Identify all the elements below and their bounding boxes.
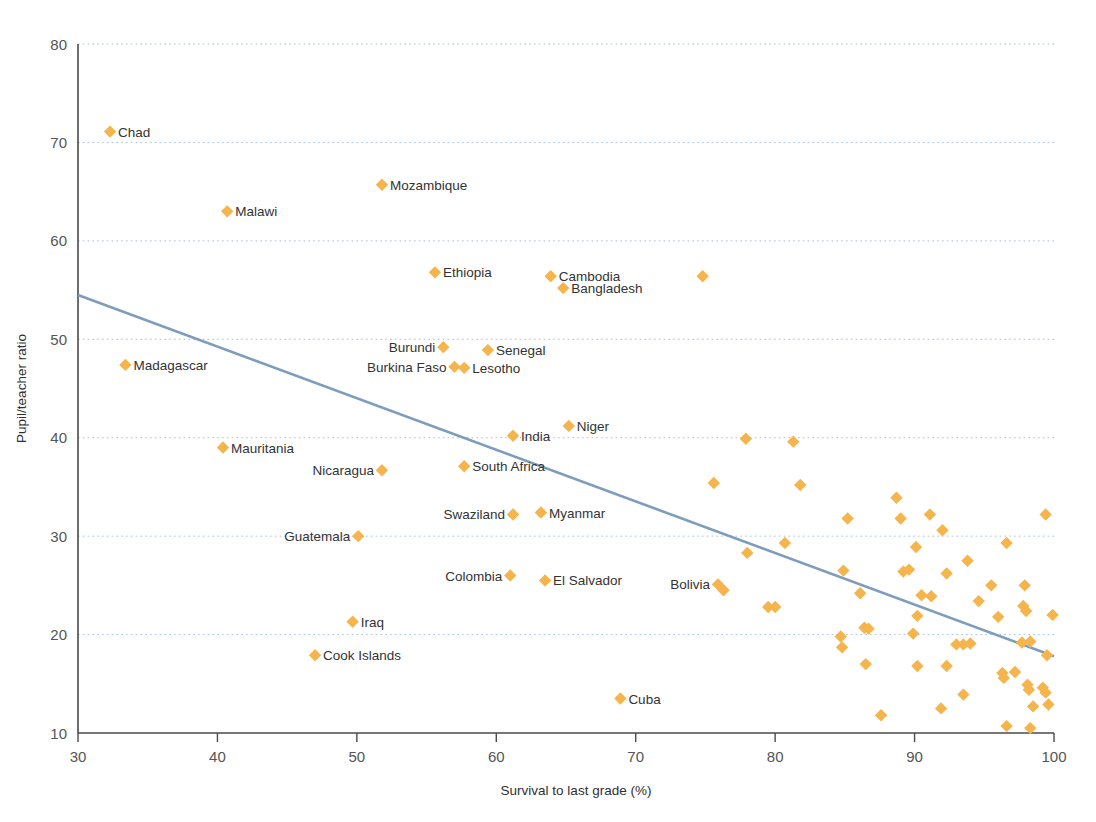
plot-area: 102030405060708030405060708090100Surviva… <box>0 0 1096 822</box>
labeled-data-point[interactable]: Cook Islands <box>309 648 401 663</box>
data-point[interactable] <box>910 541 922 553</box>
y-tick-label-10: 10 <box>50 725 67 742</box>
labeled-data-point[interactable]: South Africa <box>458 459 545 474</box>
data-point[interactable] <box>924 508 936 520</box>
data-point[interactable] <box>940 660 952 672</box>
labeled-data-point[interactable]: Colombia <box>445 569 516 584</box>
data-point[interactable] <box>741 547 753 559</box>
data-point[interactable] <box>834 630 846 642</box>
data-point[interactable] <box>985 579 997 591</box>
data-point[interactable] <box>936 524 948 536</box>
data-point-marker[interactable] <box>458 362 470 374</box>
data-point[interactable] <box>779 537 791 549</box>
data-point-label: Burkina Faso <box>367 360 447 375</box>
data-point[interactable] <box>841 512 853 524</box>
data-point-marker[interactable] <box>309 649 321 661</box>
labeled-data-point[interactable]: Mauritania <box>217 441 295 456</box>
data-point[interactable] <box>860 658 872 670</box>
data-point[interactable] <box>837 564 849 576</box>
data-point-marker[interactable] <box>376 179 388 191</box>
labeled-data-point[interactable]: Malawi <box>221 204 277 219</box>
data-point[interactable] <box>957 688 969 700</box>
data-point-marker[interactable] <box>507 430 519 442</box>
data-point[interactable] <box>1019 579 1031 591</box>
y-tick-label-30: 30 <box>50 528 67 545</box>
data-point-marker[interactable] <box>352 530 364 542</box>
data-point-label: Ethiopia <box>443 265 492 280</box>
data-point[interactable] <box>1039 508 1051 520</box>
labeled-data-point[interactable]: Senegal <box>482 343 546 358</box>
data-point-label: Cook Islands <box>323 648 401 663</box>
labeled-data-point[interactable]: Burkina Faso <box>367 360 461 375</box>
data-point[interactable] <box>836 641 848 653</box>
data-point[interactable] <box>740 432 752 444</box>
scatter-chart: 102030405060708030405060708090100Surviva… <box>0 0 1096 822</box>
data-point[interactable] <box>854 587 866 599</box>
data-point[interactable] <box>935 702 947 714</box>
labeled-data-point[interactable]: India <box>507 429 551 444</box>
data-point[interactable] <box>894 512 906 524</box>
y-tick-label-80: 80 <box>50 36 67 53</box>
data-point-marker[interactable] <box>217 441 229 453</box>
data-point[interactable] <box>696 270 708 282</box>
data-point-label: Mozambique <box>390 178 467 193</box>
labeled-data-point[interactable]: Burundi <box>389 340 450 355</box>
data-point[interactable] <box>992 611 1004 623</box>
y-tick-label-50: 50 <box>50 331 67 348</box>
data-point-marker[interactable] <box>544 270 556 282</box>
data-point-marker[interactable] <box>539 574 551 586</box>
labeled-data-point[interactable]: Ethiopia <box>429 265 492 280</box>
data-point-label: Cuba <box>628 692 661 707</box>
data-point-label: Myanmar <box>549 506 606 521</box>
labeled-data-point[interactable]: Swaziland <box>443 507 519 522</box>
data-point-marker[interactable] <box>458 460 470 472</box>
data-point[interactable] <box>875 709 887 721</box>
data-point[interactable] <box>1000 537 1012 549</box>
data-point-marker[interactable] <box>119 359 131 371</box>
data-point-marker[interactable] <box>504 569 516 581</box>
data-point[interactable] <box>769 601 781 613</box>
labeled-data-point[interactable]: Madagascar <box>119 358 208 373</box>
data-point[interactable] <box>925 590 937 602</box>
data-point[interactable] <box>940 567 952 579</box>
labeled-data-point[interactable]: Nicaragua <box>312 463 388 478</box>
data-point[interactable] <box>890 492 902 504</box>
labeled-data-point[interactable]: Bolivia <box>670 577 724 592</box>
data-point[interactable] <box>1042 698 1054 710</box>
data-point[interactable] <box>794 479 806 491</box>
data-point[interactable] <box>907 627 919 639</box>
labeled-data-point[interactable]: Mozambique <box>376 178 467 193</box>
data-point-marker[interactable] <box>437 341 449 353</box>
data-point[interactable] <box>973 595 985 607</box>
data-point[interactable] <box>708 477 720 489</box>
data-point[interactable] <box>911 610 923 622</box>
data-point[interactable] <box>1009 666 1021 678</box>
data-point[interactable] <box>915 589 927 601</box>
y-tick-label-70: 70 <box>50 134 67 151</box>
data-point-marker[interactable] <box>346 616 358 628</box>
labeled-data-point[interactable]: Myanmar <box>535 506 606 521</box>
labeled-data-point[interactable]: Iraq <box>346 615 383 630</box>
data-point-marker[interactable] <box>614 692 626 704</box>
labeled-data-point[interactable]: Cuba <box>614 692 661 707</box>
data-point-marker[interactable] <box>482 344 494 356</box>
data-point-marker[interactable] <box>535 506 547 518</box>
data-point-marker[interactable] <box>429 266 441 278</box>
data-point-marker[interactable] <box>507 508 519 520</box>
x-axis-title: Survival to last grade (%) <box>501 783 652 798</box>
data-point-marker[interactable] <box>104 125 116 137</box>
data-point[interactable] <box>1027 700 1039 712</box>
data-point-marker[interactable] <box>376 464 388 476</box>
data-point[interactable] <box>911 660 923 672</box>
labeled-data-point[interactable]: El Salvador <box>539 573 623 588</box>
labeled-data-point[interactable]: Lesotho <box>458 361 520 376</box>
data-point-marker[interactable] <box>448 361 460 373</box>
data-point[interactable] <box>1046 609 1058 621</box>
data-point-label: Madagascar <box>133 358 208 373</box>
labeled-data-point[interactable]: Niger <box>563 419 610 434</box>
data-point[interactable] <box>961 555 973 567</box>
data-point-marker[interactable] <box>221 205 233 217</box>
labeled-data-point[interactable]: Chad <box>104 125 150 140</box>
data-point-marker[interactable] <box>563 420 575 432</box>
data-point[interactable] <box>1000 720 1012 732</box>
